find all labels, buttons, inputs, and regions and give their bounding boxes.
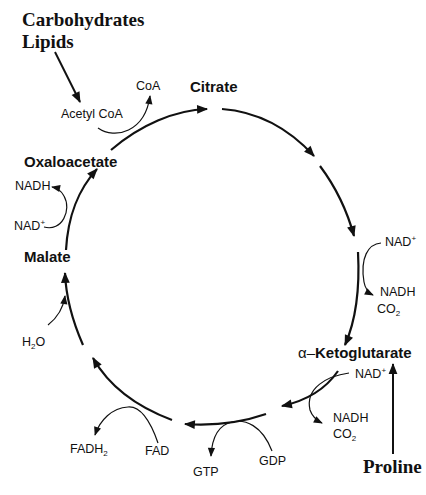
cycle-arrow-isocitrate-down (320, 166, 354, 236)
label-h2o: H2O (22, 336, 45, 351)
cycle-arrow-malate-to-oxaloacetate (66, 169, 97, 250)
label-nadh-right-bottom: NADH (333, 412, 368, 425)
side-arrow-nadh-right-top (363, 243, 381, 295)
label-alpha-ketoglutarate: α–Ketoglutarate (298, 345, 412, 360)
label-oxaloacetate: Oxaloacetate (24, 154, 117, 169)
label-nadh-left: NADH (15, 180, 50, 193)
cycle-arrow-succinate-to-fumarate (93, 358, 172, 420)
cycle-arrow-oxaloacetate-to-citrate (111, 109, 207, 150)
label-coa: CoA (136, 80, 160, 93)
label-carbohydrates: Carbohydrates (22, 10, 144, 29)
side-arrow-gdp-gtp (211, 421, 272, 456)
cycle-arrow-fumarate-to-malate (65, 273, 83, 345)
label-lipids: Lipids (22, 32, 74, 51)
label-nad-right-bottom: NAD+ (355, 367, 386, 381)
cycle-arrow-citrate-to-isocitrate (222, 109, 314, 156)
label-acetyl-coa: Acetyl CoA (61, 108, 123, 121)
label-nad-right-top: NAD+ (385, 235, 416, 249)
label-co2-right-top: CO2 (377, 303, 400, 318)
side-arrow-nadh-left (44, 187, 67, 228)
label-gdp: GDP (259, 455, 286, 468)
label-gtp: GTP (193, 466, 219, 479)
label-fadh2: FADH2 (70, 443, 108, 458)
cycle-arrow-succinyl-coa-to-succinate (185, 414, 266, 425)
label-nadh-right-top: NADH (380, 286, 415, 299)
label-nad-left: NAD+ (14, 219, 45, 233)
label-co2-right-bottom: CO2 (333, 428, 356, 443)
label-malate: Malate (24, 249, 71, 264)
label-citrate: Citrate (190, 79, 238, 94)
input-arrow-acetyl-coa (55, 52, 80, 102)
side-arrow-h2o (48, 296, 65, 325)
cycle-arrow-to-ketoglutarate (345, 252, 358, 345)
label-proline: Proline (363, 457, 422, 476)
side-arrow-fad-fadh2 (95, 407, 158, 443)
label-fad: FAD (145, 445, 169, 458)
